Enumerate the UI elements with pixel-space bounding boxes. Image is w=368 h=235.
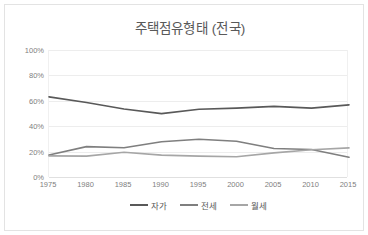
- y-axis-tick-label: 60%: [2, 96, 44, 105]
- series-lines: [49, 50, 349, 177]
- chart-title: 주택점유형태 (전국): [40, 17, 340, 37]
- y-axis-tick-label: 0%: [2, 173, 44, 182]
- chart-container: 주택점유형태 (전국) 0%20%40%60%80%100% 197519801…: [0, 0, 368, 235]
- x-axis-tick-label: 2015: [340, 180, 357, 189]
- y-axis: 0%20%40%60%80%100%: [0, 50, 44, 177]
- x-axis-tick-label: 1985: [115, 180, 132, 189]
- x-axis-tick-label: 1995: [190, 180, 207, 189]
- chart-legend: 자가전세월세: [48, 197, 348, 213]
- x-axis-tick-label: 1990: [152, 180, 169, 189]
- x-axis-tick-label: 1980: [77, 180, 94, 189]
- legend-item[interactable]: 월세: [230, 199, 267, 211]
- y-axis-tick-label: 40%: [2, 122, 44, 131]
- legend-item-label: 전세: [201, 199, 217, 211]
- y-axis-tick-label: 80%: [2, 71, 44, 80]
- legend-item-label: 월세: [251, 199, 267, 211]
- legend-line-swatch-icon: [180, 204, 198, 206]
- x-axis-tick-label: 2000: [227, 180, 244, 189]
- x-axis-tick-label: 2005: [265, 180, 282, 189]
- y-axis-tick-label: 100%: [2, 46, 44, 55]
- series-line: [49, 97, 349, 114]
- legend-line-swatch-icon: [230, 204, 248, 206]
- y-axis-tick-label: 20%: [2, 147, 44, 156]
- gridline: [49, 177, 347, 178]
- legend-line-swatch-icon: [130, 204, 148, 206]
- x-axis-tick-label: 2010: [302, 180, 319, 189]
- legend-item-label: 자가: [151, 199, 167, 211]
- legend-item[interactable]: 전세: [180, 199, 217, 211]
- x-axis-tick-label: 1975: [40, 180, 57, 189]
- legend-item[interactable]: 자가: [130, 199, 167, 211]
- x-axis: 197519801985199019952000200520102015: [48, 180, 348, 194]
- plot-area: [48, 50, 348, 177]
